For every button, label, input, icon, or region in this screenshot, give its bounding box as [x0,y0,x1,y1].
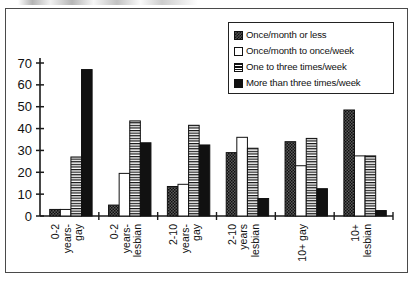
legend-item-1: Once/month to once/week [234,43,389,59]
bar [365,156,376,216]
bar [178,184,189,216]
bar [82,70,93,216]
legend-label-3: More than three times/week [246,78,360,88]
bar [119,173,130,216]
bar [285,142,296,216]
x-axis-label: gay [72,223,84,241]
y-tick-label: 40 [18,121,32,136]
bar [109,205,120,216]
bar [237,137,248,216]
x-axis-label: 0-2 [49,224,61,239]
bar [50,209,61,216]
bar [226,153,237,216]
chart-figure: 0102030405060700-2years-gay0-2years-lesb… [0,0,415,281]
bar [247,148,258,216]
bar [354,156,365,216]
x-axis-label: lesbian [131,224,143,257]
legend-label-2: One to three times/week [246,62,347,72]
bar [167,186,178,216]
bar [189,125,200,216]
x-axis-label: years [237,224,249,250]
legend-swatch-one-to-three-times-week [234,63,243,72]
x-axis-label: 10+ gay [296,223,308,261]
x-axis-label: years- [61,224,73,254]
bar [376,211,387,216]
bar [306,138,317,216]
x-axis-label: 2-10 [226,224,238,245]
bar [317,189,328,216]
legend-item-3: More than three times/week [234,75,389,91]
chart-legend: Once/month or less Once/month to once/we… [228,22,394,94]
legend-item-0: Once/month or less [234,27,389,43]
y-tick-label: 70 [18,56,32,71]
legend-label-1: Once/month to once/week [246,46,354,56]
y-tick-label: 50 [18,99,32,114]
legend-swatch-more-than-three-times-week [234,79,243,88]
y-tick-label: 60 [18,77,32,92]
x-axis-label: lesbian [361,224,373,257]
x-axis-label: lesbian [249,224,261,257]
bar [71,157,82,216]
y-tick-label: 10 [18,187,32,202]
x-axis-label: years- [120,224,132,254]
x-axis-label: 10+ [349,224,361,242]
x-axis-label: gay [190,223,202,241]
bar [130,121,141,216]
y-tick-label: 30 [18,143,32,158]
bar [60,209,71,216]
x-axis-label: 0-2 [108,224,120,239]
x-axis-label: 2-10 [167,224,179,245]
legend-swatch-once-month-to-once-week [234,47,243,56]
x-axis-label: years- [179,224,191,254]
y-tick-label: 20 [18,165,32,180]
y-tick-label: 0 [25,209,32,224]
bar [199,145,210,216]
bar [258,199,269,216]
legend-swatch-once-month-or-less [234,31,243,40]
bar [296,166,307,216]
bar [140,143,151,216]
bar [344,110,355,216]
legend-item-2: One to three times/week [234,59,389,75]
legend-label-0: Once/month or less [246,30,326,40]
